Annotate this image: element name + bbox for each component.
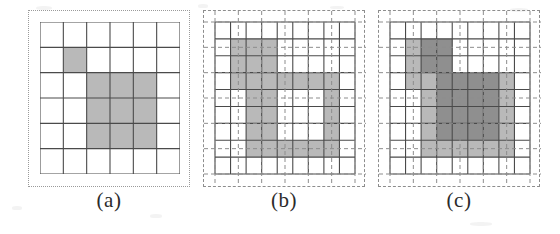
shaded-cell-light xyxy=(421,73,437,90)
shaded-cell-light xyxy=(262,123,278,140)
shaded-cell-light xyxy=(246,56,262,73)
shaded-cell-light xyxy=(246,73,262,90)
shaded-cell-light xyxy=(262,73,278,90)
shaded-cell-light xyxy=(87,123,110,148)
shaded-cell-light xyxy=(133,123,156,148)
scan-artifact xyxy=(470,222,492,226)
shaded-cell-light xyxy=(246,106,262,123)
shaded-cell-light xyxy=(324,106,340,123)
panel-c-grid xyxy=(379,11,541,185)
shaded-cell-dark xyxy=(437,56,453,73)
scan-artifact xyxy=(12,206,22,210)
shaded-cell-dark xyxy=(437,73,453,90)
shaded-cell-light xyxy=(87,98,110,123)
shaded-cell-dark xyxy=(468,106,484,123)
shaded-cell-dark xyxy=(437,106,453,123)
shaded-cell-dark xyxy=(421,56,437,73)
shaded-cell-light xyxy=(262,56,278,73)
figure-container: (a) (b) (c) xyxy=(0,0,560,234)
shaded-cell-light xyxy=(293,73,309,90)
shaded-cell-light xyxy=(63,47,86,72)
shaded-cell-dark xyxy=(483,106,499,123)
shaded-cell-light xyxy=(308,73,324,90)
shaded-cell-light xyxy=(246,123,262,140)
shaded-cell-light xyxy=(499,106,515,123)
shaded-cell-light xyxy=(110,123,133,148)
shaded-cell-light xyxy=(262,106,278,123)
panel-b-grid xyxy=(204,11,366,185)
scan-artifact xyxy=(198,4,208,8)
shaded-cell-dark xyxy=(468,73,484,90)
caption-b: (b) xyxy=(204,188,364,213)
shaded-cell-light xyxy=(110,73,133,98)
shaded-cell-light xyxy=(133,73,156,98)
scan-artifact xyxy=(330,6,344,9)
shaded-cell-light xyxy=(421,123,437,140)
shaded-cell-light xyxy=(87,73,110,98)
shaded-cell-dark xyxy=(468,123,484,140)
shaded-cell-dark xyxy=(483,73,499,90)
shaded-cell-dark xyxy=(452,106,468,123)
shaded-cell-dark xyxy=(437,123,453,140)
scan-artifact xyxy=(150,214,162,218)
panel-a-grid xyxy=(40,22,180,174)
shaded-cell-light xyxy=(133,98,156,123)
shaded-cell-light xyxy=(421,106,437,123)
shaded-cell-dark xyxy=(483,123,499,140)
caption-c: (c) xyxy=(379,188,539,213)
caption-a: (a) xyxy=(29,188,189,213)
shaded-cell-light xyxy=(110,98,133,123)
